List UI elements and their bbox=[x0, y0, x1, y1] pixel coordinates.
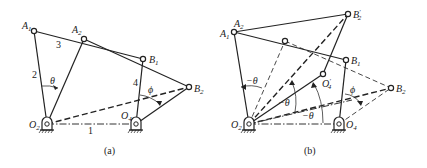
neg-theta-arc-2 bbox=[292, 82, 296, 112]
dashed-o2-b2prime bbox=[249, 14, 348, 124]
link-a1-b2prime bbox=[234, 14, 348, 32]
phi-arrow-b-icon bbox=[357, 101, 363, 106]
joint-a2-dashed bbox=[282, 38, 287, 43]
panel-a: A1 A2 B1 B2 O2 O4 3 2 4 1 θ ϕ (a) bbox=[21, 20, 204, 157]
label-o2-b: O2 bbox=[231, 119, 242, 132]
label-o2: O2 bbox=[29, 119, 40, 132]
label-link-1: 1 bbox=[88, 125, 93, 136]
joint-b2prime bbox=[345, 11, 350, 16]
joint-b2 bbox=[388, 85, 393, 90]
link-4-position-1 bbox=[136, 59, 143, 124]
dashed-link3-position2 bbox=[285, 41, 391, 88]
label-theta: θ bbox=[50, 75, 55, 86]
joint-o4prime bbox=[320, 71, 325, 76]
label-link-2: 2 bbox=[32, 69, 37, 80]
caption-a: (a) bbox=[104, 145, 115, 157]
label-link-3: 3 bbox=[56, 39, 61, 50]
link-4-b bbox=[339, 60, 346, 124]
label-neg-theta-1: −θ bbox=[246, 75, 258, 86]
label-link-4: 4 bbox=[133, 77, 138, 88]
label-o4: O4 bbox=[121, 110, 132, 123]
joint-b1 bbox=[343, 57, 348, 62]
ground-pivot-o4-b-icon bbox=[331, 117, 346, 133]
label-a1-b: A1 bbox=[219, 28, 230, 41]
label-b1-b: B1 bbox=[351, 55, 361, 68]
joint-b2 bbox=[186, 84, 191, 89]
joint-a1-a2 bbox=[231, 29, 236, 34]
label-b1: B1 bbox=[149, 54, 159, 67]
neg-theta-arrow-2-icon bbox=[289, 80, 295, 85]
neg-theta-arc-3 bbox=[314, 84, 323, 123]
link-3-position-1 bbox=[34, 31, 143, 59]
label-phi: ϕ bbox=[148, 84, 153, 95]
link-4-position-2 bbox=[136, 87, 189, 124]
panel-b: A2 A1 B′2 B1 B2 O′4 O2 O4 −θ −θ −θ ϕ (b) bbox=[219, 8, 406, 157]
joint-b1 bbox=[140, 56, 145, 61]
label-neg-theta-3: −θ bbox=[302, 110, 314, 121]
label-neg-theta-2: −θ bbox=[278, 97, 290, 108]
label-b2-b: B2 bbox=[396, 83, 406, 96]
label-a2: A2 bbox=[71, 24, 82, 37]
diagonal-o2-b2 bbox=[47, 87, 189, 124]
label-o4-b: O4 bbox=[346, 119, 357, 132]
ground-pivot-o2-b-icon bbox=[241, 117, 256, 133]
label-o4prime: O′4 bbox=[322, 77, 332, 91]
label-phi-b: ϕ bbox=[350, 84, 355, 95]
link-o4prime-b2prime bbox=[323, 14, 348, 74]
neg-theta-arrow-3-icon bbox=[311, 82, 317, 88]
label-b2: B2 bbox=[194, 83, 204, 96]
link-3-b bbox=[234, 32, 346, 60]
four-bar-linkage-diagram: A1 A2 B1 B2 O2 O4 3 2 4 1 θ ϕ (a) bbox=[0, 0, 427, 168]
ground-pivot-o2-icon bbox=[39, 117, 54, 133]
joint-a1 bbox=[31, 28, 36, 33]
label-a1: A1 bbox=[21, 20, 32, 33]
caption-b: (b) bbox=[304, 145, 316, 157]
phi-arrow-icon bbox=[156, 101, 162, 106]
joint-a2 bbox=[81, 36, 86, 41]
label-b2prime: B′2 bbox=[353, 8, 362, 22]
